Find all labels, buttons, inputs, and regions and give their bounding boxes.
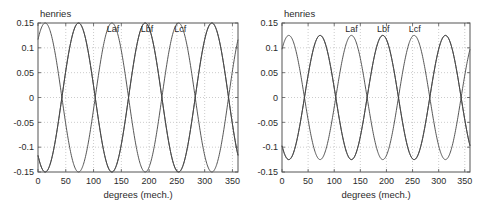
left-label-lbf: Lbf <box>141 24 154 34</box>
right-unit-label: henries <box>284 8 315 19</box>
chart-panel-right: 0.150.10.050-0.05-0.1-0.15 0501001502002… <box>244 0 488 207</box>
left-y-tick-labels: 0.150.10.050-0.05-0.1-0.15 <box>13 18 34 177</box>
left-x-tick-5: 250 <box>169 176 184 186</box>
left-label-lcf: Lcf <box>174 24 187 34</box>
two-panel-inductance-figure: 0.150.10.050-0.05-0.1-0.15 0501001502002… <box>0 0 488 207</box>
right-label-lcf: Lcf <box>409 24 422 34</box>
right-y-tick-5: -0.1 <box>262 142 278 152</box>
left-curve-annotations: LafLbfLcf <box>107 24 187 34</box>
left-x-tick-0: 0 <box>35 176 40 186</box>
left-x-tick-4: 200 <box>142 176 157 186</box>
right-y-tick-0: 0.15 <box>260 18 278 28</box>
right-x-tick-4: 200 <box>379 176 394 186</box>
left-x-tick-6: 300 <box>197 176 212 186</box>
chart-panel-left: 0.150.10.050-0.05-0.1-0.15 0501001502002… <box>0 0 244 207</box>
left-y-tick-6: -0.15 <box>13 167 34 177</box>
right-y-tick-4: -0.05 <box>257 118 278 128</box>
right-gridlines <box>282 23 470 172</box>
left-y-tick-1: 0.1 <box>21 43 34 53</box>
left-unit-label: henries <box>40 8 71 19</box>
right-y-tick-2: 0.05 <box>260 68 278 78</box>
right-x-tick-1: 50 <box>303 176 313 186</box>
left-label-laf: Laf <box>107 24 120 34</box>
left-y-tick-4: -0.05 <box>13 118 34 128</box>
right-plot-svg: 0.150.10.050-0.05-0.1-0.15 0501001502002… <box>244 0 488 207</box>
right-x-tick-labels: 050100150200250300350 <box>279 176 472 186</box>
right-y-tick-labels: 0.150.10.050-0.05-0.1-0.15 <box>257 18 278 177</box>
right-x-tick-6: 300 <box>431 176 446 186</box>
right-x-tick-7: 350 <box>457 176 472 186</box>
right-x-tick-5: 250 <box>405 176 420 186</box>
left-plot-svg: 0.150.10.050-0.05-0.1-0.15 0501001502002… <box>0 0 244 207</box>
right-label-laf: Laf <box>345 24 358 34</box>
right-y-tick-1: 0.1 <box>265 43 278 53</box>
right-curve-annotations: LafLbfLcf <box>345 24 421 34</box>
left-x-tick-2: 100 <box>86 176 101 186</box>
left-y-tick-2: 0.05 <box>16 68 34 78</box>
left-x-tick-labels: 050100150200250300350 <box>35 176 239 186</box>
left-y-tick-0: 0.15 <box>16 18 34 28</box>
left-x-tick-7: 350 <box>225 176 240 186</box>
left-x-tick-1: 50 <box>61 176 71 186</box>
right-x-axis-title: degrees (mech.) <box>341 189 410 200</box>
left-y-tick-3: 0 <box>29 93 34 103</box>
left-y-tick-5: -0.1 <box>18 142 34 152</box>
right-x-tick-3: 150 <box>353 176 368 186</box>
right-y-tick-3: 0 <box>273 93 278 103</box>
left-gridlines <box>38 23 238 172</box>
left-x-axis-title: degrees (mech.) <box>103 189 172 200</box>
right-x-tick-2: 100 <box>327 176 342 186</box>
right-x-tick-0: 0 <box>279 176 284 186</box>
right-label-lbf: Lbf <box>377 24 390 34</box>
right-y-tick-6: -0.15 <box>257 167 278 177</box>
left-x-tick-3: 150 <box>114 176 129 186</box>
